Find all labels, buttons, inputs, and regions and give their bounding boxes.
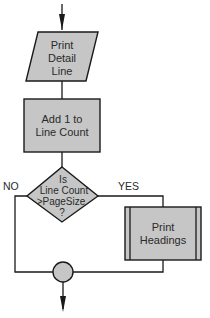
decision-label-line-3: >PageSize (37, 196, 86, 207)
decision-label-line-4: ? (59, 207, 65, 218)
node-decision-line-count-gt-pagesize[interactable]: Is Line Count >PageSize ? (27, 167, 98, 222)
flowchart-diagram: Print Detail Line Add 1 to Line Count Is… (0, 0, 210, 318)
node-print-detail-line[interactable]: Print Detail Line (26, 32, 98, 81)
yes-branch-line (98, 196, 163, 207)
decision-label-line-1: Is (59, 174, 67, 185)
return-line (73, 260, 163, 272)
node-print-headings[interactable]: Print Headings (125, 207, 201, 260)
exit-arrowhead-icon (60, 296, 66, 312)
node-label-line-1: Print (51, 39, 74, 51)
entry-arrowhead-icon (59, 14, 65, 30)
node-label-line-3: Line (52, 65, 73, 77)
node-label-line-1: Print (152, 221, 175, 233)
node-label-line-2: Detail (48, 52, 76, 64)
node-label-line-2: Headings (140, 234, 187, 246)
no-label: NO (3, 180, 19, 192)
connector-circle[interactable] (53, 262, 73, 282)
yes-label: YES (118, 180, 139, 192)
node-label-line-1: Add 1 to (42, 113, 83, 125)
node-label-line-2: Line Count (35, 126, 88, 138)
node-add-1-to-line-count[interactable]: Add 1 to Line Count (24, 99, 100, 152)
decision-label-line-2: Line Count (40, 185, 89, 196)
